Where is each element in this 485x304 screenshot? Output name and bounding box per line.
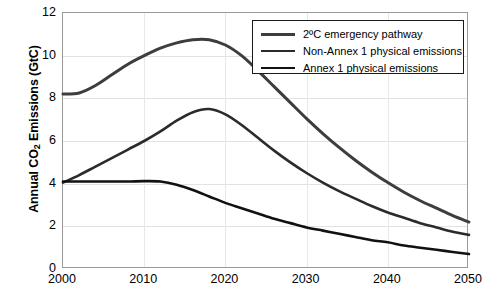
legend-item[interactable]: Non-Annex 1 physical emissions [261,43,463,59]
legend-color-swatch [261,50,295,52]
series-line-2 [63,181,469,254]
x-axis-tick-label: 2030 [276,272,336,286]
legend-label: Annex 1 physical emissions [303,63,438,74]
y-axis-tick-label: 8 [4,91,56,104]
x-axis-tick-label: 2020 [194,272,254,286]
x-axis-tick-label: 2000 [32,272,92,286]
legend: 2ºC emergency pathwayNon-Annex 1 physica… [252,20,464,74]
y-axis-tick-label: 4 [4,177,56,190]
y-axis-tick-label: 6 [4,134,56,147]
y-axis-tick-label: 10 [4,49,56,62]
y-axis-ticks: 024681012 [0,0,56,304]
legend-label: 2ºC emergency pathway [303,29,423,40]
x-axis-tick-label: 2040 [357,272,417,286]
y-axis-tick-label: 2 [4,219,56,232]
legend-color-swatch [261,33,295,36]
x-axis-tick-label: 2010 [113,272,173,286]
legend-item[interactable]: 2ºC emergency pathway [261,26,463,42]
legend-color-swatch [261,67,295,69]
y-axis-tick-label: 12 [4,6,56,19]
chart-container: Annual CO2 Emissions (GtC) 024681012 200… [0,0,485,304]
x-axis-tick-label: 2050 [438,272,485,286]
legend-item[interactable]: Annex 1 physical emissions [261,60,463,76]
legend-label: Non-Annex 1 physical emissions [303,46,462,57]
